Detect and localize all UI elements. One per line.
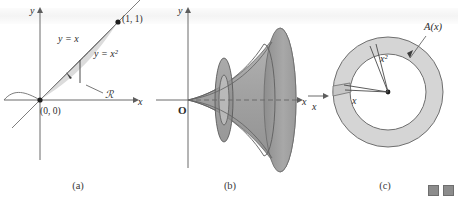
panel-a-y-axis-label: y	[29, 5, 35, 16]
line-y-equals-x	[12, 0, 140, 128]
label-parabola-y-equals-x-squared: y = x²	[93, 48, 119, 59]
label-outer-radius-x-squared: x²	[379, 53, 388, 64]
region-leader-line	[86, 85, 103, 93]
registration-mark-1	[428, 185, 439, 196]
panel-c-washer-cross-section: x A(x) x² x	[308, 0, 458, 174]
label-origin-O: O	[178, 104, 187, 116]
caption-a: (a)	[48, 180, 108, 191]
panel-c-x-axis-label: x	[311, 101, 317, 112]
page-registration-marks	[428, 185, 454, 196]
label-area-A-of-x: A(x)	[423, 21, 443, 33]
caption-c: (c)	[355, 180, 415, 191]
label-region-R: ℛ	[105, 89, 114, 100]
point-origin-marker	[37, 97, 42, 102]
panel-b-y-axis-label: y	[177, 5, 183, 16]
panel-a-region-between-curves: y x y = x y = x² ℛ (0, 0) (1, 1)	[0, 0, 155, 174]
panel-b-solid-of-revolution: y x O	[152, 0, 312, 174]
calculus-figure: y x y = x y = x² ℛ (0, 0) (1, 1)	[0, 0, 458, 204]
point-one-one-marker	[115, 19, 120, 24]
panel-a-x-axis-label: x	[137, 96, 143, 107]
caption-b: (b)	[200, 180, 260, 191]
panel-b-x-axis-label: x	[301, 96, 307, 107]
label-inner-radius-x: x	[351, 95, 357, 106]
label-point-one-one: (1, 1)	[122, 14, 143, 25]
registration-mark-2	[443, 185, 454, 196]
label-point-origin: (0, 0)	[40, 106, 61, 117]
label-line-y-equals-x: y = x	[57, 33, 79, 44]
